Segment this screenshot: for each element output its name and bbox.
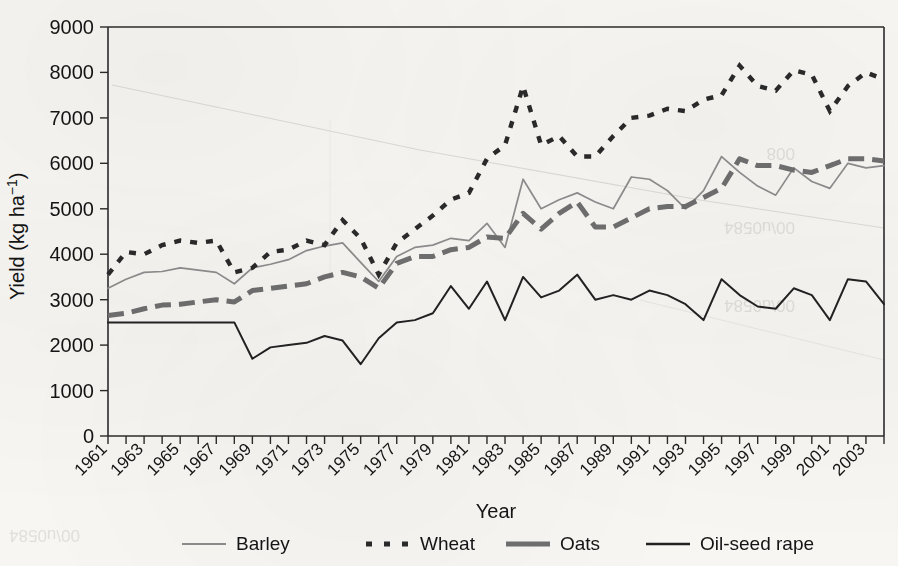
svg-text:00\u0584: 00\u0584	[9, 526, 80, 545]
xtick-label: 1995	[684, 439, 724, 479]
legend-item-oats: Oats	[506, 533, 600, 554]
xtick-label: 1983	[468, 439, 508, 479]
legend-label: Barley	[236, 533, 290, 554]
xtick-label: 1981	[432, 439, 472, 479]
series-group	[108, 66, 884, 365]
ytick-label: 7000	[50, 107, 95, 129]
chart-legend: BarleyWheatOatsOil-seed rape	[182, 533, 814, 554]
xtick-label: 1975	[323, 439, 363, 479]
xtick-label: 1993	[648, 439, 688, 479]
legend-item-barley: Barley	[182, 533, 290, 554]
xtick-label: 1979	[395, 439, 435, 479]
x-axis-tick-labels: 1961196319651967196919711973197519771979…	[71, 439, 869, 479]
xtick-label: 1973	[287, 439, 327, 479]
ytick-label: 3000	[50, 289, 95, 311]
legend-item-wheat: Wheat	[366, 533, 476, 554]
ytick-label: 5000	[50, 198, 95, 220]
xtick-label: 1967	[179, 439, 219, 479]
ytick-label: 2000	[50, 334, 95, 356]
xtick-label: 1985	[504, 439, 544, 479]
ytick-label: 8000	[50, 61, 95, 83]
series-line-oil-seed-rape	[108, 275, 884, 365]
svg-text:00\u0584: 00\u0584	[724, 218, 795, 237]
ytick-label: 6000	[50, 152, 95, 174]
svg-text:008: 008	[767, 144, 795, 163]
xtick-label: 1971	[251, 439, 291, 479]
xtick-label: 1987	[540, 439, 580, 479]
xtick-label: 1997	[720, 439, 760, 479]
chart-figure: 008 00\u0584 00\u0584 00\u0584 0	[0, 0, 898, 566]
xtick-label: 1961	[71, 439, 111, 479]
y-axis-title: Yield (kg ha−1)	[4, 172, 28, 300]
y-axis-tick-labels: 0 1000 2000 3000 4000 5000 6000 7000 800…	[50, 16, 95, 447]
xtick-label: 1977	[359, 439, 399, 479]
xtick-label: 1989	[576, 439, 616, 479]
xtick-label: 1999	[756, 439, 796, 479]
y-axis-title-exponent: −1	[4, 179, 20, 195]
series-line-wheat	[108, 66, 884, 275]
xtick-label: 1963	[107, 439, 147, 479]
legend-label: Wheat	[420, 533, 476, 554]
yield-line-chart: 008 00\u0584 00\u0584 00\u0584 0	[0, 0, 898, 566]
xtick-label: 1965	[143, 439, 183, 479]
y-axis-ticks	[100, 27, 108, 436]
y-axis-title-text: Yield (kg ha	[6, 194, 28, 300]
xtick-label: 1991	[612, 439, 652, 479]
xtick-label: 2001	[793, 439, 833, 479]
legend-label: Oats	[560, 533, 600, 554]
ytick-label: 1000	[50, 380, 95, 402]
xtick-label: 1969	[215, 439, 255, 479]
x-axis-title: Year	[476, 500, 517, 522]
ytick-label: 9000	[50, 16, 95, 38]
legend-item-oil-seed-rape: Oil-seed rape	[646, 533, 814, 554]
ytick-label: 4000	[50, 243, 95, 265]
y-axis-title-close: )	[6, 172, 28, 179]
svg-text:Yield (kg ha−1): Yield (kg ha−1)	[4, 172, 28, 300]
legend-label: Oil-seed rape	[700, 533, 814, 554]
xtick-label: 2003	[829, 439, 869, 479]
